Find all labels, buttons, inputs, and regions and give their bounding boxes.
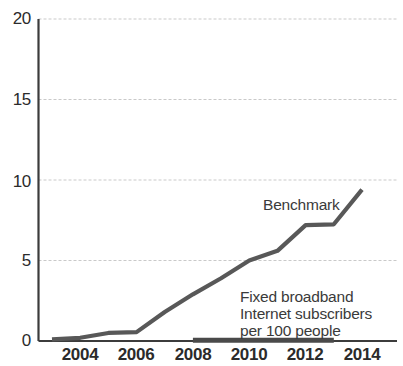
series-annotation-line-1: Fixed broadband [240, 288, 372, 305]
y-tick-label-10: 10 [0, 172, 31, 192]
series-annotation-line-2: Internet subscribers [240, 305, 372, 322]
y-tick-label-15: 15 [0, 90, 31, 110]
chart-container: 20 15 10 5 0 2004 2006 2008 2010 2012 20… [0, 0, 403, 366]
series-annotation-line-3: per 100 people [240, 322, 372, 339]
benchmark-annotation: Benchmark [263, 196, 340, 213]
y-tick-label-0: 0 [0, 331, 31, 351]
benchmark-annotation-line-1: Benchmark [263, 196, 340, 213]
x-tick-label-2014: 2014 [326, 345, 398, 365]
y-tick-label-20: 20 [0, 9, 31, 29]
series-annotation: Fixed broadband Internet subscribers per… [240, 288, 372, 339]
y-tick-label-5: 5 [0, 251, 31, 271]
